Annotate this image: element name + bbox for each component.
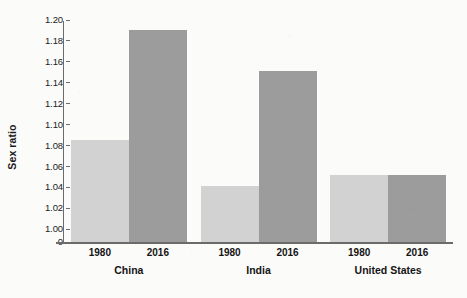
x-axis-year-label: 2016 [259, 246, 317, 260]
x-axis-year-label: 2016 [129, 246, 187, 260]
bar-india-1980 [201, 186, 259, 242]
x-axis-group-label-china: China [64, 263, 194, 277]
x-axis-group-label-united-states: United States [323, 263, 453, 277]
y-axis-tick: 1.08 [0, 139, 70, 151]
x-axis-year-label: 2016 [388, 246, 446, 260]
y-axis-tick: 1.16 [0, 56, 70, 68]
x-axis-group-label-india: India [194, 263, 324, 277]
y-axis-tick: 1.00 [0, 223, 70, 235]
y-axis-tick: 1.20 [0, 14, 70, 26]
bar-china-2016 [129, 30, 187, 242]
bar-united-states-1980 [330, 175, 388, 242]
x-axis-year-label: 1980 [71, 246, 129, 260]
y-axis-tick: 1.10 [0, 119, 70, 131]
x-axis-year-label: 1980 [330, 246, 388, 260]
bars-layer [64, 20, 453, 242]
sex-ratio-bar-chart: Sex ratio 01.001.021.041.061.081.101.121… [0, 0, 467, 298]
y-axis-tick: 1.18 [0, 35, 70, 47]
y-axis-tick: 1.04 [0, 181, 70, 193]
x-axis-label-group: 19802016China19802016India19802016United… [64, 246, 453, 296]
y-axis-tick: 1.14 [0, 77, 70, 89]
x-axis-line [56, 242, 453, 244]
bar-china-1980 [71, 140, 129, 242]
y-axis-tick: 1.06 [0, 160, 70, 172]
bar-india-2016 [259, 71, 317, 242]
x-axis-year-label: 1980 [201, 246, 259, 260]
bar-united-states-2016 [388, 175, 446, 242]
y-axis-tick: 1.02 [0, 202, 70, 214]
y-axis-tick: 1.12 [0, 98, 70, 110]
